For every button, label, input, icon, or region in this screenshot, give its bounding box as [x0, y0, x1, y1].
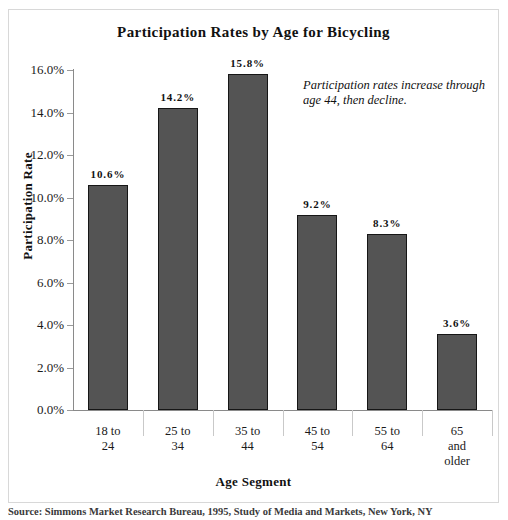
y-tick-mark [67, 240, 73, 241]
category-label-line: 44 [208, 439, 288, 454]
chart-page: Participation Rates by Age for Bicycling… [0, 0, 508, 520]
category-label: 25 to34 [138, 424, 218, 454]
y-tick-label: 8.0% [8, 232, 64, 248]
chart-annotation: Participation rates increase through age… [303, 78, 488, 108]
bar-value-label: 15.8% [208, 57, 288, 69]
bar [88, 185, 128, 410]
bar [297, 215, 337, 411]
category-label: 65andolder [417, 424, 497, 469]
y-tick-label: 12.0% [8, 147, 64, 163]
bar-value-label: 9.2% [277, 198, 357, 210]
y-tick-label: 0.0% [8, 402, 64, 418]
category-label-line: 35 to [208, 424, 288, 439]
y-tick-mark [67, 198, 73, 199]
category-label-line: and [417, 439, 497, 454]
y-tick-mark [67, 113, 73, 114]
category-label-line: 54 [277, 439, 357, 454]
y-tick-label: 14.0% [8, 105, 64, 121]
y-tick-label: 2.0% [8, 360, 64, 376]
bar-value-label: 3.6% [417, 317, 497, 329]
category-label-line: older [417, 454, 497, 469]
y-tick-mark [67, 70, 73, 71]
category-label-line: 65 [417, 424, 497, 439]
y-tick-label: 16.0% [8, 62, 64, 78]
category-label: 45 to54 [277, 424, 357, 454]
bar-value-label: 14.2% [138, 91, 218, 103]
category-label-line: 55 to [347, 424, 427, 439]
bar-value-label: 8.3% [347, 217, 427, 229]
category-label-line: 24 [68, 439, 148, 454]
bar [158, 108, 198, 410]
category-label: 35 to44 [208, 424, 288, 454]
y-tick-mark [67, 368, 73, 369]
category-label-line: 18 to [68, 424, 148, 439]
category-label: 55 to64 [347, 424, 427, 454]
bar [228, 74, 268, 410]
y-tick-label: 4.0% [8, 317, 64, 333]
y-tick-mark [67, 410, 73, 411]
category-label-line: 25 to [138, 424, 218, 439]
y-tick-mark [67, 155, 73, 156]
source-note: Source: Simmons Market Research Bureau, … [8, 506, 508, 517]
y-tick-label: 6.0% [8, 275, 64, 291]
y-tick-label: 10.0% [8, 190, 64, 206]
category-label-line: 34 [138, 439, 218, 454]
y-axis-line [73, 69, 74, 411]
y-tick-mark [67, 283, 73, 284]
y-tick-mark [67, 325, 73, 326]
category-label: 18 to24 [68, 424, 148, 454]
category-label-line: 45 to [277, 424, 357, 439]
bar [367, 234, 407, 410]
bar-value-label: 10.6% [68, 168, 148, 180]
category-label-line: 64 [347, 439, 427, 454]
x-axis-title: Age Segment [8, 474, 499, 490]
bar [437, 334, 477, 411]
chart-title: Participation Rates by Age for Bicycling [8, 24, 499, 41]
